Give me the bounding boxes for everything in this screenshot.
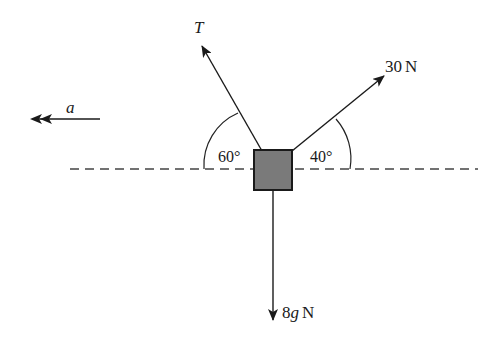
weight-label: 8gN [282, 303, 314, 322]
angle-label-40: 40° [310, 148, 332, 165]
block [254, 150, 292, 190]
tension-arrow [202, 46, 262, 151]
angle-label-60: 60° [218, 148, 240, 165]
applied-force-arrow [292, 76, 384, 151]
acceleration-arrow [30, 114, 100, 124]
free-body-diagram: T 30N 8gN 60° 40° a [0, 0, 491, 339]
angle-arc-40 [336, 119, 351, 169]
applied-force-label: 30N [385, 57, 417, 76]
acceleration-label: a [66, 98, 75, 117]
tension-label: T [194, 18, 205, 37]
